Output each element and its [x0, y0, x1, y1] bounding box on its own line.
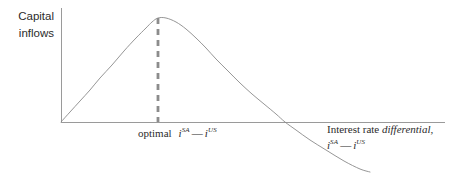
optimal-expression: iSA—iUS: [179, 127, 217, 139]
capital-inflows-curve: [61, 17, 370, 172]
x-axis-expr-sup2: US: [356, 138, 365, 146]
x-axis-label: Interest rate differential, iSA—iUS: [327, 122, 433, 153]
x-axis-label-plain: Interest rate: [327, 123, 382, 135]
y-axis-label-line2: inflows: [8, 25, 54, 42]
optimal-expr-sup2: US: [208, 126, 217, 134]
optimal-word: optimal: [138, 127, 172, 139]
x-axis-label-line1: Interest rate differential,: [327, 122, 433, 137]
x-axis-label-comma: ,: [430, 123, 433, 135]
optimal-annotation-label: optimaliSA—iUS: [138, 126, 217, 140]
x-axis-expr-minus: —: [338, 139, 353, 151]
figure-container: Capital inflows optimaliSA—iUS Interest …: [0, 0, 460, 178]
x-axis-label-italic: differential: [382, 123, 430, 135]
optimal-expr-sup1: SA: [182, 126, 190, 134]
x-axis-expression: iSA—iUS: [327, 138, 433, 153]
optimal-expr-minus: —: [190, 127, 205, 139]
y-axis-label-line1: Capital: [8, 8, 54, 25]
y-axis-label: Capital inflows: [8, 8, 54, 41]
